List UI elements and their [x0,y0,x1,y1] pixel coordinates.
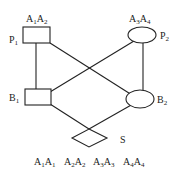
p1-rectangle [23,27,50,43]
edge-p1-b2 [50,43,132,95]
genotype-a2a2: A2A2 [64,156,86,169]
b1-rectangle [25,89,51,105]
node-p2: P2 A3A4 [128,13,170,43]
p2-genotype: A3A4 [129,13,151,26]
node-s: S [72,129,126,147]
genotype-a1a1: A1A1 [34,156,56,169]
genetic-cross-diagram: P1 A1A2 P2 A3A4 B1 B2 S A1A1 A2A2 A3A3 A… [0,0,179,169]
p1-label: P1 [9,34,19,47]
s-diamond [72,129,107,147]
s-label: S [120,134,126,145]
edge-b2-s [89,104,133,129]
b2-label: B2 [157,94,168,107]
b2-ellipse [126,90,154,108]
genotype-a4a4: A4A4 [123,156,145,169]
node-p1: P1 A1A2 [9,13,50,47]
b1-label: B1 [9,92,20,105]
genotype-a3a3: A3A3 [93,156,115,169]
p1-genotype: A1A2 [26,13,48,26]
edge-b1-s [50,104,89,129]
node-b1: B1 [9,89,51,105]
edge-p2-b1 [50,41,134,92]
offspring-genotypes: A1A1 A2A2 A3A3 A4A4 [34,156,145,169]
node-b2: B2 [126,90,168,108]
p2-label: P2 [160,30,170,43]
p2-ellipse [128,27,156,43]
